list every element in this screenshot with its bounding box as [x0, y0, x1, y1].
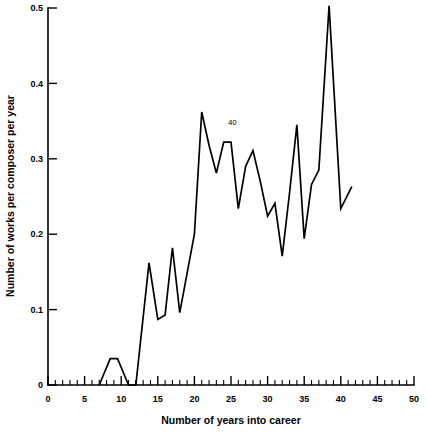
x-tick-label: 10: [116, 394, 126, 404]
chart-figure: 00.10.20.30.40.5 05101520253035404550 40…: [0, 0, 427, 434]
x-tick-label: 25: [226, 394, 236, 404]
y-tick-label: 0.1: [30, 305, 43, 315]
series-line: [99, 6, 352, 385]
x-axis-title: Number of years into career: [161, 414, 300, 426]
x-tick-label: 45: [372, 394, 382, 404]
x-tick-label: 50: [409, 394, 419, 404]
chart-annotations: 40: [228, 118, 236, 127]
y-axis: 00.10.20.30.40.5: [30, 3, 57, 390]
line-chart-plot: 00.10.20.30.40.5 05101520253035404550 40…: [0, 0, 427, 434]
x-tick-label: 40: [336, 394, 346, 404]
y-axis-title: Number of works per composer per year: [4, 95, 16, 297]
x-tick-label: 30: [263, 394, 273, 404]
y-tick-label: 0: [38, 380, 43, 390]
data-series-group: [99, 6, 352, 385]
annotation-label: 40: [228, 118, 236, 127]
y-tick-label: 0.3: [30, 154, 43, 164]
x-tick-label: 20: [189, 394, 199, 404]
x-tick-label: 5: [82, 394, 87, 404]
y-tick-label: 0.4: [30, 79, 43, 89]
y-tick-label: 0.2: [30, 229, 43, 239]
y-tick-label: 0.5: [30, 3, 43, 13]
x-tick-label: 35: [299, 394, 309, 404]
x-tick-label: 0: [45, 394, 50, 404]
x-tick-label: 15: [153, 394, 163, 404]
